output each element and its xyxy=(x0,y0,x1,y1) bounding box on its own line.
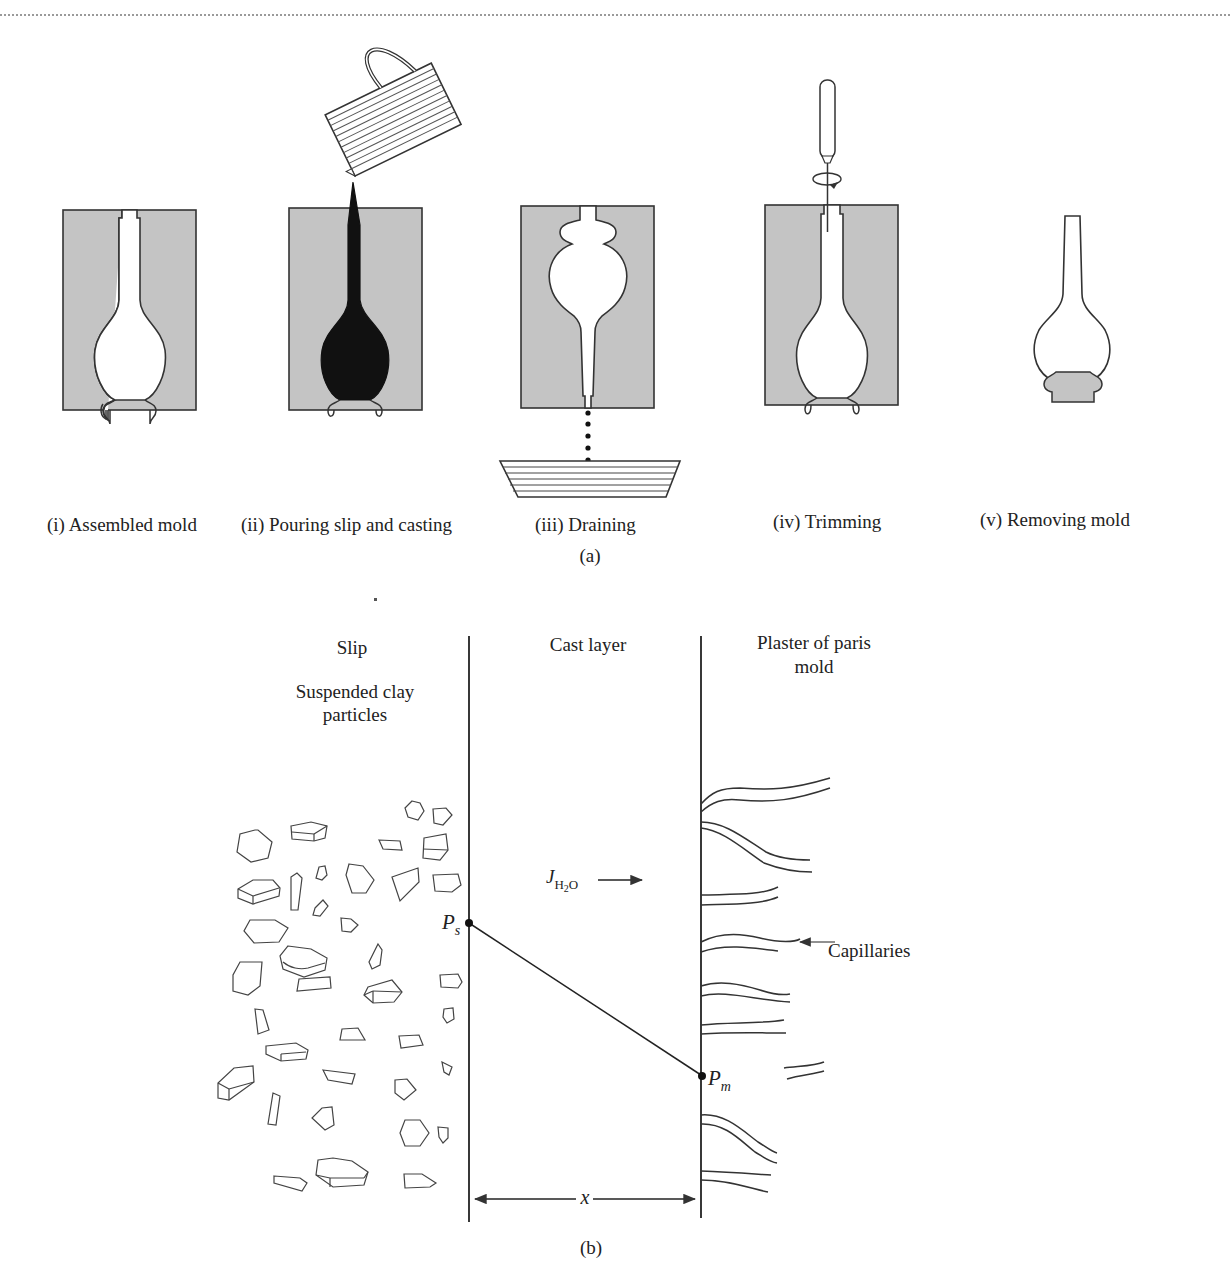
step-assembled-mold-illustration xyxy=(63,210,196,424)
step-trimming-illustration xyxy=(765,80,898,414)
slip-drops xyxy=(585,410,590,462)
step-draining-illustration xyxy=(500,206,680,497)
clay-particles xyxy=(218,801,462,1191)
pouring-jug-icon xyxy=(303,29,461,178)
cast-layer-schematic xyxy=(218,636,835,1222)
suspended-clay-label-line2: particles xyxy=(323,704,387,726)
drain-tray-icon xyxy=(500,461,680,497)
slip-region-label: Slip xyxy=(337,637,368,659)
step-removing-mold-illustration xyxy=(1034,216,1110,402)
rotation-arrow-icon xyxy=(830,182,838,189)
suspended-clay-label-line1: Suspended clay xyxy=(296,681,415,703)
flux-sub-o: O xyxy=(569,877,578,892)
step-label-assembled-mold: (i) Assembled mold xyxy=(47,514,197,536)
water-flux-label: JH2O xyxy=(546,866,578,888)
step-label-pouring-slip: (ii) Pouring slip and casting xyxy=(241,514,452,536)
capillaries-label: Capillaries xyxy=(828,940,910,962)
ps-subscript: s xyxy=(455,923,460,938)
step-label-trimming: (iv) Trimming xyxy=(773,511,881,533)
mold-pressure-label: Pm xyxy=(708,1066,731,1091)
cast-layer-label: Cast layer xyxy=(550,634,627,656)
thickness-label: x xyxy=(581,1186,590,1209)
flux-subscript: H2O xyxy=(554,877,578,892)
flux-sub-h: H xyxy=(554,877,563,892)
step-pouring-slip-illustration xyxy=(289,29,461,416)
pressure-gradient-line xyxy=(469,923,701,1075)
part-b-label: (b) xyxy=(580,1237,602,1259)
mold-pressure-point xyxy=(698,1072,706,1080)
slip-pressure-label: Ps xyxy=(442,910,460,935)
mold-label-line1: Plaster of paris xyxy=(757,632,871,654)
pm-subscript: m xyxy=(721,1079,731,1094)
capillaries xyxy=(701,778,830,1192)
step-label-draining: (iii) Draining xyxy=(535,514,636,536)
slip-pressure-point xyxy=(465,919,473,927)
part-a-label: (a) xyxy=(579,545,600,567)
flux-sub-2: 2 xyxy=(564,883,569,894)
stray-dot xyxy=(374,598,377,601)
ps-symbol: P xyxy=(442,910,455,934)
pm-symbol: P xyxy=(708,1066,721,1090)
step-label-removing-mold: (v) Removing mold xyxy=(980,509,1130,531)
mold-label-line2: mold xyxy=(794,656,833,678)
